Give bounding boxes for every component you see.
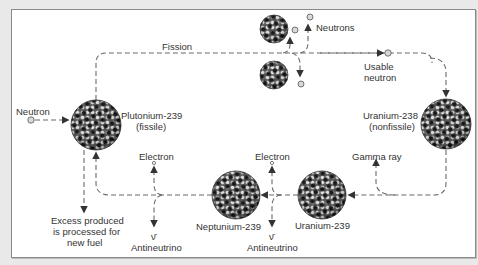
neutron-branch-3 <box>292 53 300 76</box>
label-neptunium-239: Neptunium-239 <box>196 221 261 232</box>
label-electron-right: Electron <box>255 151 290 162</box>
label-antineutrino-left: Antineutrino <box>131 242 182 253</box>
label-usable-neutron-2: neutron <box>364 72 396 83</box>
usable-neutron <box>385 50 391 56</box>
nucleus-plutonium-239 <box>71 100 121 150</box>
released-neutron-1 <box>292 27 298 33</box>
label-usable-neutron-1: Usable <box>364 61 394 72</box>
electron-branch-right <box>272 167 281 195</box>
label-excess-2: is processed for <box>53 226 120 237</box>
label-fissile: (fissile) <box>136 121 166 132</box>
label-nu-bar-right: ν̄ <box>269 231 276 242</box>
label-plutonium-239: Plutonium-239 <box>121 110 182 121</box>
incoming-neutron <box>28 117 34 123</box>
fission-fragment-2 <box>260 61 288 89</box>
neutron-branch-2 <box>300 25 308 53</box>
antineutrino-branch-left <box>154 195 162 226</box>
label-antineutrino-right: Antineutrino <box>247 242 298 253</box>
nucleus-neptunium-239 <box>212 171 260 219</box>
nucleus-uranium-239 <box>298 171 346 219</box>
electron-branch-left <box>154 167 162 195</box>
breeding-cycle-diagram: Fission Neutrons Usable neutron Neutron … <box>0 0 478 265</box>
label-excess-3: new fuel <box>67 237 102 248</box>
label-excess-1: Excess produced <box>51 215 124 226</box>
label-fission: Fission <box>162 41 192 52</box>
fission-fragment-1 <box>260 15 288 43</box>
neutron-branch-1 <box>283 38 290 53</box>
antineutrino-branch-right <box>272 195 281 226</box>
released-neutron-3 <box>298 81 304 87</box>
label-uranium-239: Uranium-239 <box>295 220 350 231</box>
label-neutron-in: Neutron <box>16 106 50 117</box>
label-electron-left: Electron <box>139 151 174 162</box>
label-uranium-238: Uranium-238 <box>363 110 418 121</box>
label-nu-bar-left: ν̄ <box>151 231 158 242</box>
nucleus-uranium-238 <box>421 99 471 149</box>
gamma-ray-path <box>376 160 395 195</box>
usable-neutron-to-u238-path <box>430 58 446 96</box>
label-gamma-ray: Gamma ray <box>352 151 402 162</box>
label-neutrons: Neutrons <box>316 22 355 33</box>
released-neutron-2 <box>307 14 313 20</box>
label-nonfissile: (nonfissile) <box>369 121 415 132</box>
